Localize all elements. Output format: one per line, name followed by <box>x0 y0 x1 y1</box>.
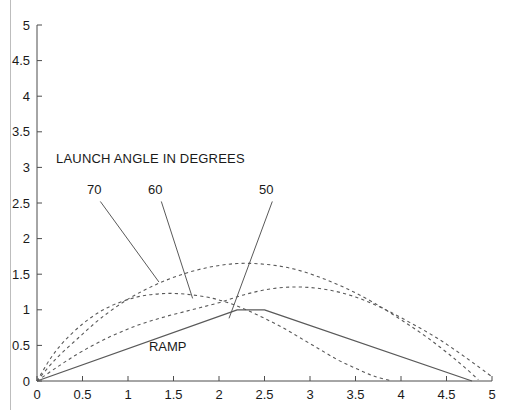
trajectory-curve-60 <box>37 263 478 381</box>
y-tick-label: 2 <box>23 231 30 246</box>
trajectory-curve-50 <box>37 287 492 381</box>
y-tick-label: 2.5 <box>12 196 30 211</box>
angle-label-70: 70 <box>87 182 101 197</box>
callout-leader-line-50 <box>229 201 272 318</box>
x-tick-label: 1 <box>124 387 131 402</box>
x-tick-label: 0 <box>33 387 40 402</box>
x-tick-label: 1.5 <box>164 387 182 402</box>
data-series-group <box>37 263 492 381</box>
x-tick-label: 2 <box>215 387 222 402</box>
callout-leader-line-60 <box>161 201 192 298</box>
y-tick-label: 3.5 <box>12 124 30 139</box>
axes-group <box>37 25 492 381</box>
ramp-label: RAMP <box>149 339 187 354</box>
y-tick-label: 1.5 <box>12 267 30 282</box>
angle-label-60: 60 <box>148 182 162 197</box>
x-tick-label: 4.5 <box>437 387 455 402</box>
y-tick-label: 0.5 <box>12 338 30 353</box>
page-edge-rule <box>10 0 11 410</box>
x-tick-label: 3.5 <box>346 387 364 402</box>
x-axis-ticks <box>37 376 492 381</box>
y-axis-tick-labels: 00.511.522.533.544.55 <box>12 18 30 389</box>
trajectory-curve-70 <box>37 293 392 381</box>
x-axis-tick-labels: 00.511.522.533.544.55 <box>33 387 495 402</box>
x-tick-label: 5 <box>488 387 495 402</box>
y-tick-label: 4 <box>23 89 30 104</box>
y-tick-label: 1 <box>23 302 30 317</box>
y-tick-label: 3 <box>23 160 30 175</box>
x-tick-label: 3 <box>306 387 313 402</box>
callout-group: 706050 <box>87 182 273 318</box>
callout-leader-line-70 <box>100 201 159 282</box>
y-tick-label: 5 <box>23 18 30 33</box>
x-tick-label: 2.5 <box>255 387 273 402</box>
chart-figure: 00.511.522.533.544.55 00.511.522.533.544… <box>0 0 508 410</box>
ramp-line <box>37 310 472 381</box>
y-tick-label: 4.5 <box>12 53 30 68</box>
y-tick-label: 0 <box>23 374 30 389</box>
x-tick-label: 0.5 <box>73 387 91 402</box>
x-tick-label: 4 <box>397 387 404 402</box>
angle-label-50: 50 <box>259 182 273 197</box>
chart-title: LAUNCH ANGLE IN DEGREES <box>56 151 245 166</box>
trajectory-chart: 00.511.522.533.544.55 00.511.522.533.544… <box>0 0 508 410</box>
y-axis-ticks <box>37 25 42 381</box>
